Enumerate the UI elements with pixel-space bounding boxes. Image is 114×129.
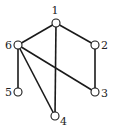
node-5 <box>14 88 22 96</box>
node-1 <box>52 19 60 27</box>
edge-1-2 <box>56 23 95 45</box>
edge-1-6 <box>18 23 56 45</box>
node-label-4: 4 <box>60 115 67 128</box>
node-label-6: 6 <box>5 39 12 52</box>
node-label-5: 5 <box>5 86 12 99</box>
edge-1-4 <box>55 23 56 116</box>
node-2 <box>91 41 99 49</box>
node-4 <box>51 112 59 120</box>
node-label-1: 1 <box>52 4 59 17</box>
node-label-2: 2 <box>101 39 108 52</box>
node-label-3: 3 <box>101 87 108 100</box>
edges-group <box>18 23 95 116</box>
node-3 <box>91 88 99 96</box>
node-6 <box>14 41 22 49</box>
graph-diagram: 123456 <box>0 0 114 129</box>
